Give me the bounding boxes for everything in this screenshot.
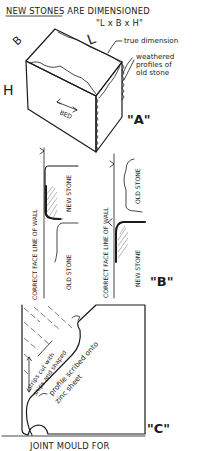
weathered-edge-side — [99, 66, 120, 98]
figure-a-title: NEW STONES ARE DIMENSIONED — [6, 6, 150, 16]
figure-c-caption: JOINT MOULD FOR — [29, 441, 110, 451]
weathered-leader — [123, 58, 134, 80]
stone-block: BED — [26, 29, 124, 152]
upper-stone-label: NEW STONE — [65, 175, 72, 212]
lower-stone-label: OLD STONE — [65, 254, 72, 290]
weathered-edge — [30, 62, 96, 94]
true-dimension-leader — [108, 41, 122, 53]
figure-b-label: "B" — [150, 274, 173, 289]
upper-stone-label: OLD STONE — [134, 168, 141, 204]
figure-a: NEW STONES ARE DIMENSIONED "L x B x H" B — [3, 6, 178, 152]
figure-b: CORRECT FACE LINE OF WALL NEW STONE OLD … — [31, 148, 173, 300]
figure-c: strips cut with snips and shaped profile… — [2, 305, 170, 451]
new-stone-outline — [45, 166, 78, 219]
figure-b-left-panel: CORRECT FACE LINE OF WALL NEW STONE OLD … — [31, 148, 78, 300]
true-dimension-annotation: true dimension — [124, 36, 178, 45]
face-line-label: CORRECT FACE LINE OF WALL — [31, 209, 38, 300]
stone-repair-diagram: NEW STONES ARE DIMENSIONED "L x B x H" B — [0, 0, 198, 451]
diagram-stage: NEW STONES ARE DIMENSIONED "L x B x H" B — [0, 0, 198, 451]
dim-b-label: B — [10, 33, 25, 48]
weathered-line-3: old stone — [136, 68, 170, 77]
lower-stone-label: NEW STONE — [134, 250, 141, 287]
edge-zigzag-right — [122, 64, 124, 100]
face-line-arrow — [40, 148, 44, 154]
hatching — [118, 226, 128, 258]
block-front-face — [26, 61, 96, 152]
figure-c-label: "C" — [147, 421, 170, 436]
dimension-formula: "L x B x H" — [96, 18, 143, 28]
face-line-label: CORRECT FACE LINE OF WALL — [102, 207, 109, 298]
profile-leader — [39, 393, 47, 396]
bed-label: BED — [59, 109, 74, 120]
figure-a-label: "A" — [127, 112, 151, 127]
hatching — [47, 186, 57, 218]
figure-b-right-panel: CORRECT FACE LINE OF WALL OLD STONE NEW … — [102, 154, 145, 298]
face-line-arrow — [110, 161, 114, 167]
dim-h-label: H — [3, 82, 14, 98]
block-side-face — [96, 62, 122, 152]
scribe-hook — [72, 316, 80, 320]
bed-arrow: BED — [57, 99, 77, 120]
